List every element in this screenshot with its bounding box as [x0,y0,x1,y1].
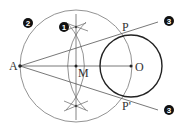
label-o: O [135,60,144,74]
label-p-prime: P' [122,99,131,113]
point-o [130,65,133,68]
step-badge-3-bottom: 3 [164,105,174,115]
bisector-bottom-point [75,105,77,107]
svg-text:3: 3 [167,17,172,26]
svg-text:1: 1 [62,23,67,32]
svg-text:2: 2 [26,19,31,28]
geometry-diagram: A M O P P' 2 1 3 3 [0,0,185,130]
bisector-top-point [75,26,77,28]
label-a: A [9,59,18,73]
svg-text:3: 3 [167,106,172,115]
step-badge-1: 1 [59,22,69,32]
label-p: P [122,20,129,34]
step-badge-3-top: 3 [164,16,174,26]
label-m: M [78,66,89,80]
step-badge-2: 2 [23,18,33,28]
point-a [18,64,22,68]
